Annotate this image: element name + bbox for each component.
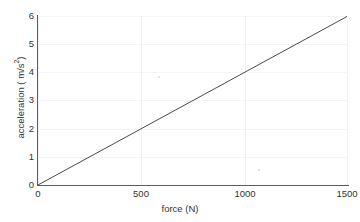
- x-tick-label-0: 0: [8, 188, 68, 199]
- x-tick-label-500: 500: [111, 188, 171, 199]
- y-axis-title-tail: ): [15, 56, 26, 59]
- y-axis-title: acceleration ( m/s2): [15, 28, 26, 168]
- y-axis-title-exponent: 2: [13, 60, 20, 64]
- x-tick-label-1500: 1500: [317, 188, 360, 199]
- chart-figure: 6 5 4 3 2 1 0 0 500 1000 1500 force (N) …: [0, 0, 360, 222]
- y-tick-label-6: 6: [10, 11, 34, 21]
- x-axis-title: force (N): [0, 203, 360, 214]
- y-axis-title-text: acceleration ( m/s: [15, 64, 26, 139]
- x-tick-label-1000: 1000: [215, 188, 275, 199]
